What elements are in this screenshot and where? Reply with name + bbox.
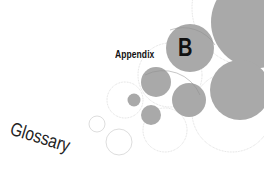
filled-circle: [172, 83, 206, 117]
filled-circle: [141, 67, 171, 97]
filled-circle: [211, 0, 264, 68]
outline-circle: [89, 116, 105, 132]
filled-circle: [128, 94, 141, 107]
appendix-letter: B: [178, 35, 192, 60]
decorative-circles: [0, 0, 264, 179]
appendix-label: Appendix: [115, 49, 154, 60]
filled-circle: [210, 60, 264, 120]
filled-circle: [141, 105, 161, 125]
outline-circle: [106, 129, 132, 155]
